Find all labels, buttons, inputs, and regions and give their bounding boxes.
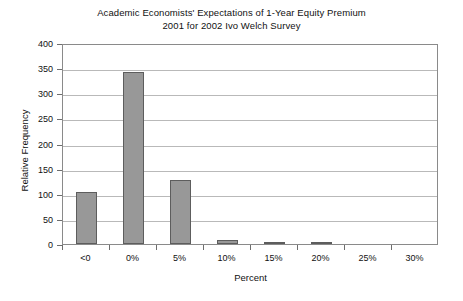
x-tick-label: 15% (264, 253, 282, 263)
x-tick-mark (62, 245, 63, 250)
x-tick-mark (391, 245, 392, 250)
y-tick-label: 100 (38, 190, 53, 200)
x-tick-label: 25% (358, 253, 376, 263)
bar-chart: Academic Economists' Expectations of 1-Y… (0, 0, 463, 301)
x-tick-label: 30% (405, 253, 423, 263)
bar (217, 240, 238, 244)
y-tick-label: 200 (38, 140, 53, 150)
gridline (63, 171, 437, 172)
gridline (63, 95, 437, 96)
x-tick-label: 5% (173, 253, 186, 263)
plot-area (62, 44, 438, 245)
y-tick-label: 0 (48, 240, 53, 250)
gridline (63, 120, 437, 121)
gridline (63, 221, 437, 222)
chart-title-line-2: 2001 for 2002 Ivo Welch Survey (0, 19, 463, 32)
y-tick-label: 400 (38, 39, 53, 49)
bar (311, 242, 332, 244)
bar (170, 180, 191, 244)
y-tick-label: 300 (38, 89, 53, 99)
x-tick-label: 10% (217, 253, 235, 263)
gridline (63, 70, 437, 71)
bar (264, 242, 285, 244)
x-tick-mark (156, 245, 157, 250)
x-tick-mark (250, 245, 251, 250)
x-tick-label: 20% (311, 253, 329, 263)
x-tick-label: 0% (126, 253, 139, 263)
y-tick-label: 50 (43, 215, 53, 225)
x-axis-title: Percent (0, 272, 463, 283)
bar (76, 192, 97, 244)
x-tick-label: <0 (80, 253, 90, 263)
y-axis: 050100150200250300350400 (0, 0, 62, 301)
x-tick-mark (297, 245, 298, 250)
chart-title: Academic Economists' Expectations of 1-Y… (0, 6, 463, 32)
gridline (63, 196, 437, 197)
x-tick-mark (344, 245, 345, 250)
gridline (63, 146, 437, 147)
x-tick-mark (203, 245, 204, 250)
x-tick-mark (109, 245, 110, 250)
y-tick-label: 350 (38, 64, 53, 74)
y-tick-label: 250 (38, 114, 53, 124)
chart-title-line-1: Academic Economists' Expectations of 1-Y… (0, 6, 463, 19)
bar (123, 72, 144, 244)
y-tick-label: 150 (38, 165, 53, 175)
